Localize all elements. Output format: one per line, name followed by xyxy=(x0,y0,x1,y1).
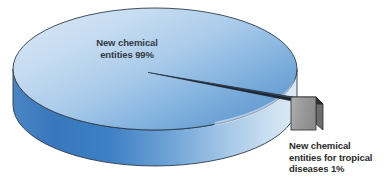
pie-chart-figure: New chemical entities 99% New chemical e… xyxy=(0,0,386,189)
pie-label-tropical-diseases: New chemical entities for tropical disea… xyxy=(289,140,385,175)
pie-label-new-chemical-entities: New chemical entities 99% xyxy=(68,37,186,60)
exploded-slice-box xyxy=(291,97,323,130)
